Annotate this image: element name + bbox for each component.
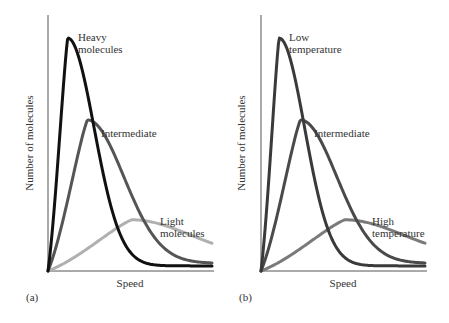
panel-a: HeavymoleculesIntermediateLightmolecules… — [23, 15, 214, 304]
series-label-line: temperature — [289, 43, 342, 55]
series-label-line: Low — [289, 31, 309, 43]
series-label: Lowtemperature — [289, 31, 342, 55]
series-label-line: Light — [160, 215, 184, 227]
series-label-line: Heavy — [78, 31, 107, 43]
x-axis-title: Speed — [330, 277, 357, 289]
x-axis-title: Speed — [117, 277, 144, 289]
series-label: Heavymolecules — [78, 31, 123, 55]
series-label-line: temperature — [372, 227, 425, 239]
series-label-line: Intermediate — [101, 127, 157, 139]
series-line-intermediate — [48, 120, 212, 271]
series-line-intermediate — [261, 120, 425, 271]
series-label-line: molecules — [160, 227, 205, 239]
y-axis-title: Number of molecules — [235, 95, 247, 190]
series-label-line: High — [372, 215, 395, 227]
panel-label: (a) — [26, 291, 39, 304]
series-label: Intermediate — [314, 127, 370, 139]
series-label: Intermediate — [101, 127, 157, 139]
series-label-line: molecules — [78, 43, 123, 55]
panel-b: LowtemperatureIntermediateHightemperatur… — [235, 15, 427, 304]
y-axis-title: Number of molecules — [23, 95, 35, 190]
series-label-line: Intermediate — [314, 127, 370, 139]
series-label: Hightemperature — [372, 215, 425, 239]
figure: HeavymoleculesIntermediateLightmolecules… — [0, 0, 449, 323]
panel-label: (b) — [239, 291, 252, 304]
series-label: Lightmolecules — [160, 215, 205, 239]
